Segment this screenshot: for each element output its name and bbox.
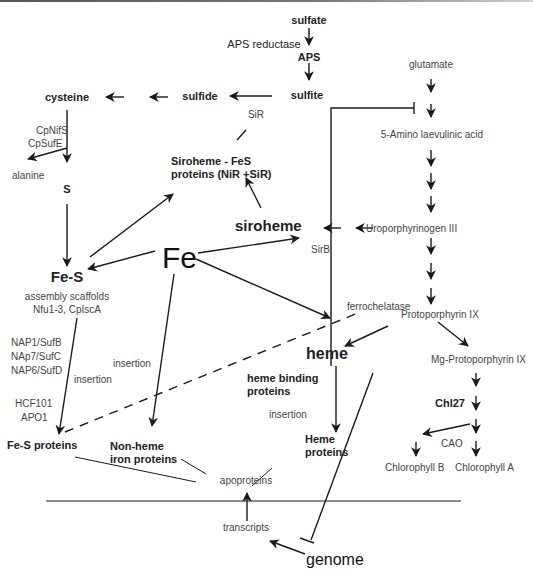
node-genome: genome bbox=[306, 553, 364, 566]
node-chlorophyll-b: Chlorophyll B bbox=[385, 461, 444, 474]
label-hcf101: HCF101 bbox=[15, 397, 52, 410]
node-mg-protoporphyrin: Mg-Protoporphyrin IX bbox=[431, 353, 526, 366]
label-chl27: Chl27 bbox=[435, 397, 465, 410]
label-nap1-sufb: NAP1/SufB bbox=[11, 336, 62, 349]
node-sulfide: sulfide bbox=[182, 90, 217, 103]
node-nonheme-line2: iron proteins bbox=[110, 453, 177, 466]
node-5-ala: 5-Amino laevulinic acid bbox=[381, 128, 483, 141]
node-cysteine: cysteine bbox=[45, 91, 89, 104]
label-sir: SiR bbox=[248, 108, 264, 121]
node-heme: heme bbox=[306, 347, 348, 360]
node-siroheme-fes-proteins-line1: Siroheme - FeS bbox=[171, 155, 251, 168]
label-insertion-fes: insertion bbox=[74, 373, 112, 386]
label-aps-reductase: APS reductase bbox=[227, 38, 300, 51]
node-sulfite: sulfite bbox=[291, 89, 323, 102]
node-aps: APS bbox=[298, 51, 321, 64]
label-cpnifs: CpNifS bbox=[36, 124, 68, 137]
label-nap7-sufc: NAp7/SufC bbox=[11, 350, 61, 363]
node-heme-binding-line2: proteins bbox=[247, 385, 290, 398]
node-siroheme: siroheme bbox=[235, 219, 302, 232]
node-uroporphyrinogen: Uroporphyrinogen III bbox=[366, 222, 457, 235]
node-heme-binding-line1: heme binding bbox=[247, 372, 319, 385]
node-chlorophyll-a: Chlorophyll A bbox=[455, 461, 514, 474]
node-transcripts: transcripts bbox=[223, 521, 269, 534]
node-protoporphyrin: Protoporphyrin IX bbox=[401, 308, 479, 321]
label-nfu-cpisca: Nfu1-3, CpIscA bbox=[33, 303, 101, 316]
node-siroheme-fes-proteins-line2: proteins (NiR +SiR) bbox=[171, 168, 272, 181]
node-fe-s-proteins: Fe-S proteins bbox=[7, 439, 77, 452]
node-heme-proteins-line2: proteins bbox=[305, 446, 348, 459]
node-sulfate: sulfate bbox=[291, 14, 326, 27]
label-apo1: APO1 bbox=[21, 411, 48, 424]
label-nap6-sufd: NAP6/SufD bbox=[11, 364, 62, 377]
label-sirb: SirB bbox=[311, 243, 330, 256]
label-insertion-heme: insertion bbox=[269, 408, 307, 421]
label-assembly-scaffolds: assembly scaffolds bbox=[25, 290, 109, 303]
label-cpsufe: CpSufE bbox=[28, 137, 62, 150]
node-apoproteins: apoproteins bbox=[220, 474, 272, 487]
node-alanine: alanine bbox=[12, 169, 44, 182]
label-cao: CAO bbox=[441, 437, 463, 450]
node-fe: Fe bbox=[162, 242, 197, 274]
label-insertion-nonheme: insertion bbox=[113, 357, 151, 370]
node-glutamate: glutamate bbox=[409, 58, 453, 71]
node-heme-proteins-line1: Heme bbox=[305, 433, 335, 446]
node-fe-s: Fe-S bbox=[51, 270, 84, 283]
node-s: S bbox=[63, 183, 70, 196]
node-nonheme-line1: Non-heme bbox=[110, 440, 164, 453]
